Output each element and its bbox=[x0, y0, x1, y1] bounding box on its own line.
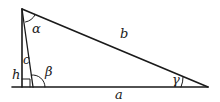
angle-arc-gamma bbox=[181, 77, 183, 87]
triangle-figure bbox=[0, 0, 220, 102]
angle-label-alpha: α bbox=[32, 22, 41, 35]
side-label-c: c bbox=[23, 54, 30, 67]
side-label-b: b bbox=[120, 27, 128, 40]
right-angle-marker bbox=[22, 79, 30, 87]
angle-label-gamma: γ bbox=[172, 73, 180, 86]
side-label-a: a bbox=[115, 88, 123, 101]
side-label-h: h bbox=[12, 68, 20, 81]
angle-label-beta: β bbox=[45, 65, 53, 78]
